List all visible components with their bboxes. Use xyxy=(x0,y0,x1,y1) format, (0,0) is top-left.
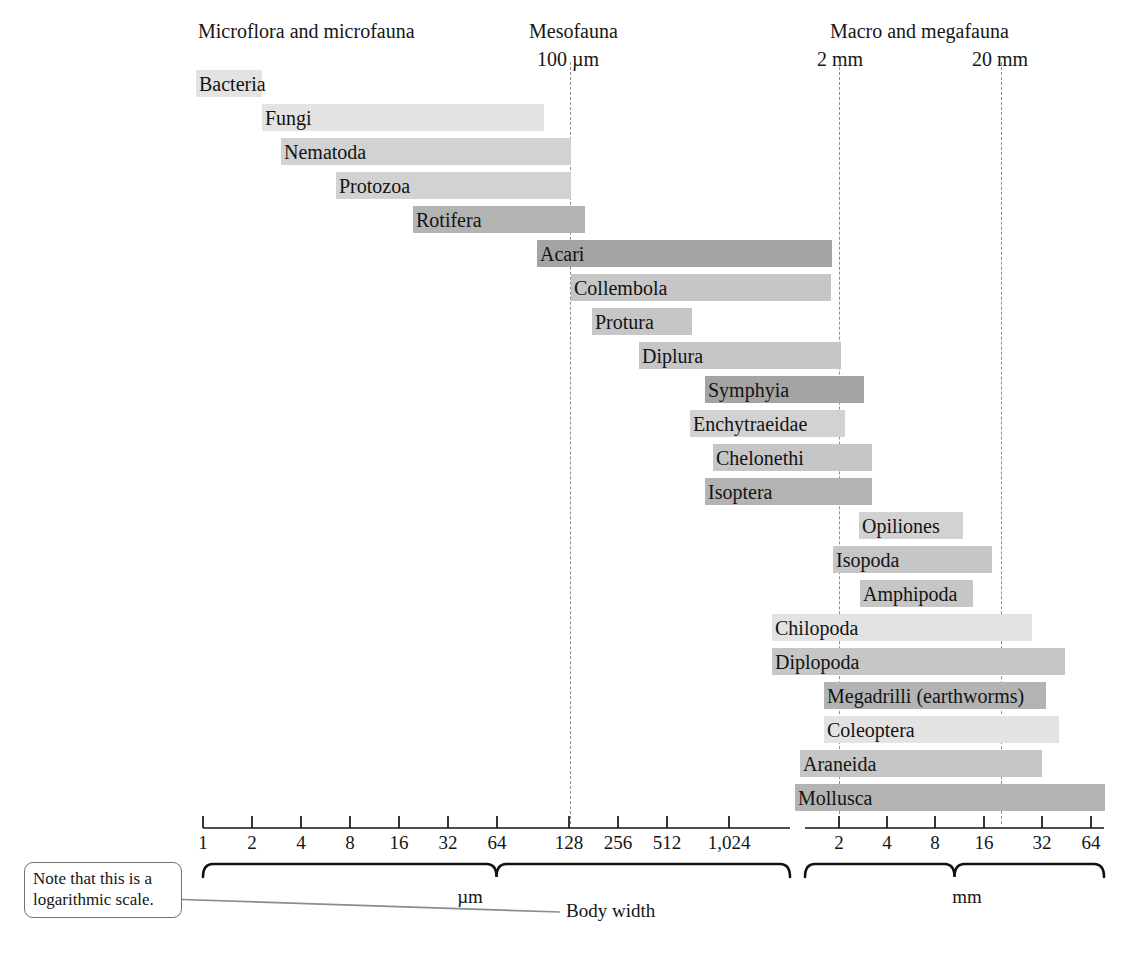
bar-row: Fungi xyxy=(262,104,544,131)
bar-label: Diplura xyxy=(639,345,703,365)
bar-row: Protozoa xyxy=(336,172,571,199)
bar-label: Rotifera xyxy=(413,209,482,229)
bar-label: Diplopoda xyxy=(772,651,859,671)
bar-row: Mollusca xyxy=(795,784,1105,811)
bar-row: Protura xyxy=(592,308,692,335)
bar-row: Symphyia xyxy=(705,376,864,403)
bar-label: Bacteria xyxy=(196,73,266,93)
tick-label-um-128: 128 xyxy=(555,832,584,854)
tick-label-um-256: 256 xyxy=(604,832,633,854)
bar-row: Enchytraeidae xyxy=(690,410,845,437)
boundary-line-20mm xyxy=(1001,62,1002,824)
bar-row: Chelonethi xyxy=(713,444,872,471)
bar-label: Amphipoda xyxy=(860,583,957,603)
bar-row: Megadrilli (earthworms) xyxy=(824,682,1046,709)
tick-label-um-1024: 1,024 xyxy=(708,832,751,854)
tick-label-um-64: 64 xyxy=(488,832,507,854)
bar-label: Collembola xyxy=(571,277,667,297)
bar-label: Isopoda xyxy=(833,549,899,569)
group-header-mesofauna: Mesofauna xyxy=(529,20,618,43)
logarithmic-scale-note: Note that this is a logarithmic scale. xyxy=(24,862,182,918)
bar-label: Enchytraeidae xyxy=(690,413,807,433)
bar-label: Symphyia xyxy=(705,379,789,399)
bar-row: Isopoda xyxy=(833,546,992,573)
bar-label: Chelonethi xyxy=(713,447,804,467)
tick-label-mm-32: 32 xyxy=(1033,832,1052,854)
bar-row: Isoptera xyxy=(705,478,872,505)
bar-row: Chilopoda xyxy=(772,614,1032,641)
tick-label-mm-8: 8 xyxy=(930,832,940,854)
tick-label-um-512: 512 xyxy=(653,832,682,854)
axis xyxy=(0,0,1143,964)
boundary-label-100um: 100 µm xyxy=(537,48,599,71)
unit-label-um: µm xyxy=(457,886,483,908)
bar-label: Isoptera xyxy=(705,481,772,501)
bar-label: Coleoptera xyxy=(824,719,915,739)
tick-label-mm-4: 4 xyxy=(882,832,892,854)
bar-row: Opiliones xyxy=(859,512,963,539)
bar-row: Acari xyxy=(537,240,832,267)
bar-row: Nematoda xyxy=(281,138,571,165)
bar-row: Araneida xyxy=(800,750,1042,777)
bar-row: Diplopoda xyxy=(772,648,1065,675)
bar-row: Amphipoda xyxy=(860,580,973,607)
tick-label-um-1: 1 xyxy=(198,832,208,854)
bar-label: Protozoa xyxy=(336,175,410,195)
tick-label-um-16: 16 xyxy=(390,832,409,854)
bar-label: Fungi xyxy=(262,107,312,127)
tick-label-um-2: 2 xyxy=(247,832,257,854)
tick-label-um-8: 8 xyxy=(345,832,355,854)
bar-label: Araneida xyxy=(800,753,876,773)
tick-label-um-4: 4 xyxy=(296,832,306,854)
bar-label: Chilopoda xyxy=(772,617,858,637)
boundary-label-2mm: 2 mm xyxy=(817,48,863,71)
tick-label-mm-16: 16 xyxy=(975,832,994,854)
group-header-microflora: Microflora and microfauna xyxy=(198,20,415,43)
body-width-chart: Microflora and microfauna Mesofauna Macr… xyxy=(0,0,1143,964)
bar-label: Opiliones xyxy=(859,515,940,535)
bar-row: Coleoptera xyxy=(824,716,1059,743)
bar-row: Diplura xyxy=(639,342,841,369)
bar-row: Bacteria xyxy=(196,70,262,97)
bar-row: Collembola xyxy=(571,274,831,301)
tick-label-mm-2: 2 xyxy=(834,832,844,854)
note-text: Note that this is a logarithmic scale. xyxy=(33,869,154,909)
tick-label-um-32: 32 xyxy=(439,832,458,854)
boundary-line-2mm xyxy=(839,62,840,824)
unit-label-mm: mm xyxy=(952,886,982,908)
bar-label: Megadrilli (earthworms) xyxy=(824,685,1024,705)
bar-row: Rotifera xyxy=(413,206,585,233)
bar-label: Protura xyxy=(592,311,654,331)
bar-label: Mollusca xyxy=(795,787,872,807)
group-header-macro: Macro and megafauna xyxy=(830,20,1009,43)
bar-label: Nematoda xyxy=(281,141,366,161)
body-width-axis-label: Body width xyxy=(566,900,655,922)
bar-label: Acari xyxy=(537,243,584,263)
tick-label-mm-64: 64 xyxy=(1082,832,1101,854)
